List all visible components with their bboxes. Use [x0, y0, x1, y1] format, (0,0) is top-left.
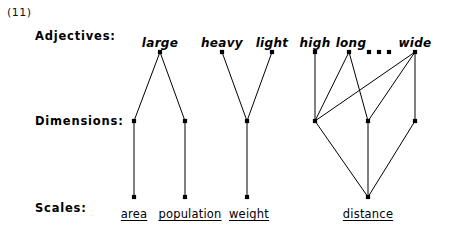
edge-wide-to-dim-distance-2: [368, 52, 415, 121]
adjective-label-light: light: [256, 36, 289, 50]
edge-dim-distance-3-to-distance: [368, 121, 415, 197]
node-dim-distance-2: [366, 119, 370, 123]
node-scale-population: [183, 195, 187, 199]
adjective-label-wide: wide: [398, 36, 431, 50]
adjective-label-long: long: [336, 36, 367, 50]
ellipsis-dot-1-icon: [367, 50, 371, 54]
node-dim-distance-3: [413, 119, 417, 123]
edge-large-to-dim-area: [134, 52, 160, 121]
ellipsis-dots-icon: [367, 50, 391, 54]
adjective-label-large: large: [142, 36, 178, 50]
edge-long-to-dim-distance-1: [315, 52, 349, 121]
edge-light-to-dim-weight: [247, 52, 272, 121]
node-adjective-light: [270, 50, 274, 54]
node-adjective-large: [158, 50, 162, 54]
edge-large-to-dim-population: [160, 52, 185, 121]
ellipsis-dot-3-icon: [387, 50, 391, 54]
scale-label-distance: distance: [343, 207, 393, 221]
edges-adjective-to-dimension: [134, 52, 415, 121]
scale-label-area: area: [121, 207, 147, 221]
adjective-label-heavy: heavy: [201, 36, 243, 50]
node-dim-distance-1: [313, 119, 317, 123]
scale-label-population: population: [158, 207, 221, 221]
node-scale-distance: [366, 195, 370, 199]
edge-heavy-to-dim-weight: [222, 52, 247, 121]
scale-nodes: [132, 195, 370, 199]
adjective-label-high: high: [300, 36, 331, 50]
node-adjective-heavy: [220, 50, 224, 54]
node-adjective-long: [347, 50, 351, 54]
dimension-nodes: [132, 119, 417, 123]
node-dim-weight: [245, 119, 249, 123]
edge-dim-distance-1-to-distance: [315, 121, 368, 197]
node-adjective-high: [313, 50, 317, 54]
ellipsis-dot-2-icon: [377, 50, 381, 54]
node-scale-area: [132, 195, 136, 199]
node-dim-area: [132, 119, 136, 123]
node-dim-population: [183, 119, 187, 123]
edges-dimension-to-scale: [134, 121, 415, 197]
node-scale-weight: [245, 195, 249, 199]
diagram-page: (11) Adjectives: Dimensions: Scales: lar…: [0, 0, 451, 234]
node-adjective-wide: [413, 50, 417, 54]
scale-label-weight: weight: [229, 207, 269, 221]
